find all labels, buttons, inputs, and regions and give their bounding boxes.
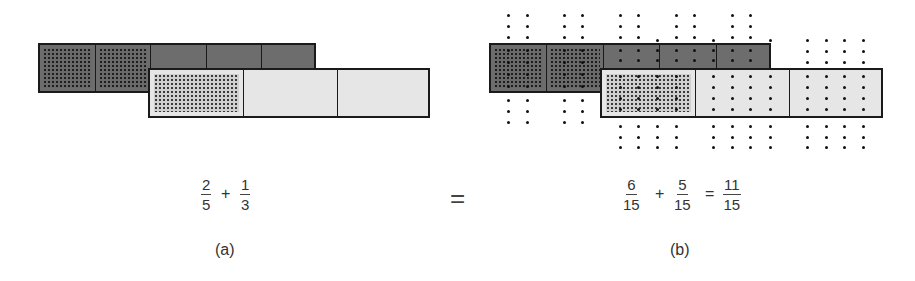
grid-dot — [656, 39, 659, 42]
fraction-eleven-fifteenths: 11 15 — [723, 177, 741, 212]
grid-dot — [675, 59, 678, 62]
grid-dot — [563, 14, 566, 17]
grid-dot — [526, 99, 529, 102]
fifth-cell-shaded — [491, 45, 547, 91]
fraction-two-fifths: 2 5 — [201, 177, 211, 212]
grid-dot — [862, 136, 865, 139]
grid-dot — [769, 108, 772, 111]
grid-dot — [806, 61, 809, 64]
grid-dot — [731, 97, 734, 100]
grid-dot — [675, 75, 678, 78]
grid-dot — [581, 110, 584, 113]
grid-dot — [749, 97, 752, 100]
grid-dot — [806, 75, 809, 78]
grid-dot — [806, 97, 809, 100]
fraction-six-fifteenths: 6 15 — [623, 177, 640, 212]
grid-dot — [693, 14, 696, 17]
grid-dot — [581, 99, 584, 102]
fifth-cell-shaded — [96, 45, 152, 91]
grid-dot — [581, 85, 584, 88]
grid-dot — [619, 25, 622, 28]
grid-dot — [843, 136, 846, 139]
grid-dot — [731, 49, 734, 52]
grid-dot — [749, 14, 752, 17]
grid-dot — [769, 39, 772, 42]
grid-dot — [619, 59, 622, 62]
grid-dot — [563, 85, 566, 88]
grid-dot — [581, 14, 584, 17]
grid-dot — [563, 73, 566, 76]
grid-dot — [731, 86, 734, 89]
grid-dot — [656, 146, 659, 149]
grid-dot — [507, 99, 510, 102]
grid-dot — [637, 25, 640, 28]
grid-dot — [637, 146, 640, 149]
grid-dot — [712, 136, 715, 139]
grid-dot — [749, 125, 752, 128]
grid-dot — [656, 86, 659, 89]
grid-dot — [731, 25, 734, 28]
grid-dot — [825, 61, 828, 64]
grid-dot — [825, 86, 828, 89]
grid-dot — [637, 14, 640, 17]
grid-dot — [526, 14, 529, 17]
grid-dot — [619, 86, 622, 89]
fifth-cell-shaded — [40, 45, 96, 91]
grid-dot — [563, 25, 566, 28]
grid-dot — [619, 146, 622, 149]
grid-dot — [693, 25, 696, 28]
caption-b: (b) — [670, 241, 690, 259]
grid-dot — [712, 146, 715, 149]
grid-dot — [862, 39, 865, 42]
denominator: 15 — [674, 195, 691, 212]
fraction-five-fifteenths: 5 15 — [674, 177, 691, 212]
grid-dot — [806, 125, 809, 128]
grid-dot — [526, 36, 529, 39]
grid-dot — [656, 136, 659, 139]
grid-dot — [862, 146, 865, 149]
grid-dot — [749, 49, 752, 52]
grid-dot — [563, 36, 566, 39]
grid-dot — [731, 14, 734, 17]
grid-dot — [526, 49, 529, 52]
grid-dot — [675, 97, 678, 100]
grid-dot — [731, 136, 734, 139]
grid-dot — [619, 97, 622, 100]
denominator: 15 — [623, 195, 640, 212]
fraction-one-third: 1 3 — [240, 177, 250, 212]
grid-dot — [749, 146, 752, 149]
grid-dot — [656, 97, 659, 100]
grid-dot — [619, 14, 622, 17]
grid-dot — [825, 146, 828, 149]
denominator: 3 — [241, 195, 249, 212]
grid-dot — [862, 108, 865, 111]
grid-dot — [526, 61, 529, 64]
grid-dot — [675, 86, 678, 89]
grid-dot — [507, 14, 510, 17]
grid-dot — [806, 108, 809, 111]
grid-dot — [843, 97, 846, 100]
grid-dot — [731, 36, 734, 39]
grid-dot — [825, 136, 828, 139]
grid-dot — [637, 136, 640, 139]
plus-operator: + — [655, 185, 664, 203]
grid-dot — [526, 73, 529, 76]
third-cell-shaded — [602, 70, 696, 116]
grid-dot — [637, 59, 640, 62]
grid-dot — [825, 50, 828, 53]
grid-dot — [581, 36, 584, 39]
grid-dot — [637, 75, 640, 78]
fifth-cell-shaded — [547, 45, 603, 91]
grid-dot — [862, 61, 865, 64]
third-cell — [244, 70, 338, 116]
grid-dot — [825, 75, 828, 78]
grid-dot — [749, 86, 752, 89]
grid-dot — [806, 39, 809, 42]
grid-dot — [563, 99, 566, 102]
grid-dot — [693, 49, 696, 52]
grid-dot — [507, 36, 510, 39]
grid-dot — [749, 59, 752, 62]
grid-dot — [581, 73, 584, 76]
numerator: 2 — [201, 177, 211, 195]
grid-dot — [769, 75, 772, 78]
